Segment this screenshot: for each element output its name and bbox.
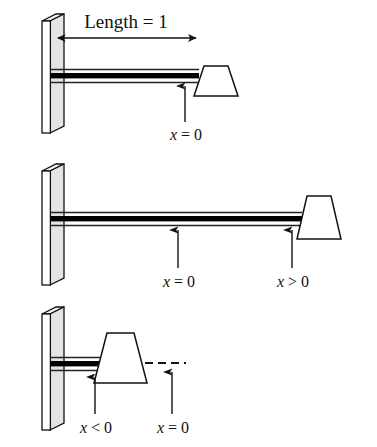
- beam-coordinate-diagram: [0, 0, 377, 447]
- label-panel2-xgt0-value: 0: [301, 273, 309, 290]
- label-panel3-xlt0-value: 0: [104, 419, 112, 436]
- label-panel2-x0-value: 0: [187, 273, 195, 290]
- label-panel1-x0-value: 0: [194, 126, 202, 143]
- wall-front-face: [42, 21, 50, 133]
- label-panel2-x0-relation: =: [174, 273, 183, 290]
- label-panel3-x0-value: 0: [181, 419, 189, 436]
- support-wall: [42, 164, 64, 285]
- label-panel2-x0: x = 0: [163, 274, 195, 290]
- beam-core-band: [50, 216, 302, 221]
- wall-front-face: [42, 171, 50, 285]
- label-panel3-xlt0-relation: <: [91, 419, 100, 436]
- label-panel1-x0: x = 0: [170, 127, 202, 143]
- label-panel2-xgt0-relation: >: [288, 273, 297, 290]
- label-panel3-x0-relation: =: [168, 419, 177, 436]
- label-panel3-xlt0: x < 0: [80, 420, 112, 436]
- support-wall: [42, 307, 64, 430]
- wall-side-face: [50, 164, 64, 285]
- label-panel1-x0-relation: =: [181, 126, 190, 143]
- label-panel2-xgt0: x > 0: [277, 274, 309, 290]
- label-panel3-x0: x = 0: [157, 420, 189, 436]
- beam-core-band: [50, 73, 199, 78]
- wall-front-face: [42, 314, 50, 430]
- wall-side-face: [50, 307, 64, 430]
- length-dimension-label: Length = 1: [84, 12, 168, 31]
